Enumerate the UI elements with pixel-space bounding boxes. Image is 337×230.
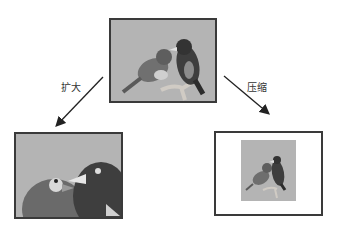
original-image bbox=[109, 18, 217, 103]
birds-small-illustration bbox=[241, 140, 296, 201]
compressed-image bbox=[241, 140, 296, 201]
compressed-frame bbox=[214, 131, 323, 216]
label-compress: 压缩 bbox=[247, 79, 267, 94]
enlarged-image bbox=[14, 132, 123, 219]
birds-illustration bbox=[111, 20, 215, 101]
birds-closeup-illustration bbox=[16, 134, 121, 217]
label-enlarge: 扩大 bbox=[61, 79, 81, 94]
